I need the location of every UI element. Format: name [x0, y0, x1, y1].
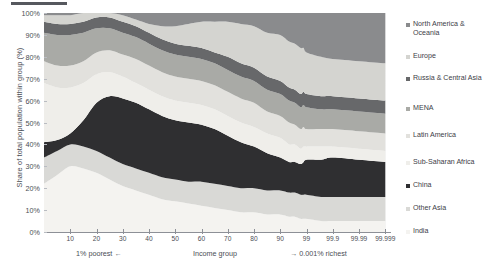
legend-item-label: Sub-Saharan Africa: [413, 158, 491, 167]
x-tick-mark: [97, 229, 98, 234]
x-tick-label: 60: [198, 235, 205, 242]
y-tick-mark: [44, 57, 47, 58]
legend-item-label: Other Asia: [413, 204, 491, 213]
y-tick-label: 50%: [0, 119, 40, 128]
legend-item[interactable]: Europe: [406, 52, 491, 61]
x-tick-mark: [359, 229, 360, 234]
legend-item[interactable]: Other Asia: [406, 204, 491, 213]
legend-item-label: Europe: [413, 52, 491, 61]
legend-swatch-icon: [406, 184, 410, 188]
y-tick-label: 30%: [0, 162, 40, 171]
x-caption-right: → 0.001% richest: [290, 249, 347, 258]
y-tick-label: 60%: [0, 97, 40, 106]
legend-item-label: India: [413, 227, 491, 236]
x-tick-label: 20: [93, 235, 100, 242]
y-tick-label: 0%: [0, 228, 40, 237]
legend-item-label: MENA: [413, 104, 491, 113]
legend-item[interactable]: Sub-Saharan Africa: [406, 158, 491, 167]
legend-item-label: Russia & Central Asia: [413, 74, 491, 83]
x-tick-mark: [70, 229, 71, 234]
x-tick-mark: [228, 229, 229, 234]
x-tick-mark: [280, 229, 281, 234]
y-tick-label: 20%: [0, 184, 40, 193]
x-tick-label: 99.99: [351, 235, 368, 242]
legend-swatch-icon: [406, 207, 410, 211]
y-tick-mark: [44, 232, 47, 233]
legend-item[interactable]: North America & Oceania: [406, 20, 491, 37]
y-tick-mark: [44, 166, 47, 167]
y-tick-mark: [44, 13, 47, 14]
legend-item[interactable]: India: [406, 227, 491, 236]
x-caption-left: 1% poorest ←: [76, 249, 122, 258]
legend-swatch-icon: [406, 134, 410, 138]
x-axis-label: Income group: [193, 249, 237, 258]
y-tick-mark: [44, 210, 47, 211]
y-tick-mark: [44, 35, 47, 36]
y-tick-label: 80%: [0, 53, 40, 62]
chart-figure: Share of total population within group (…: [0, 0, 491, 267]
legend-swatch-icon: [406, 77, 410, 81]
legend-swatch-icon: [406, 161, 410, 165]
x-tick-mark: [175, 229, 176, 234]
legend-item[interactable]: MENA: [406, 104, 491, 113]
legend-swatch-icon: [406, 55, 410, 59]
y-tick-mark: [44, 101, 47, 102]
x-tick-label: 40: [145, 235, 152, 242]
legend-swatch-icon: [406, 107, 410, 111]
x-tick-mark: [307, 229, 308, 234]
y-tick-mark: [44, 188, 47, 189]
x-tick-label: 70: [224, 235, 231, 242]
x-tick-mark: [254, 229, 255, 234]
x-tick-label: 99.999: [375, 235, 395, 242]
x-tick-label: 99.9: [326, 235, 339, 242]
x-tick-label: 10: [67, 235, 74, 242]
x-tick-label: 90: [277, 235, 284, 242]
y-tick-label: 10%: [0, 206, 40, 215]
y-tick-mark: [44, 79, 47, 80]
plot-area: [44, 13, 390, 232]
stacked-area-svg: [44, 13, 390, 232]
y-tick-label: 90%: [0, 31, 40, 40]
x-tick-mark: [385, 229, 386, 234]
legend-item[interactable]: Russia & Central Asia: [406, 74, 491, 83]
x-tick-mark: [202, 229, 203, 234]
x-tick-label: 80: [250, 235, 257, 242]
x-tick-label: 50: [172, 235, 179, 242]
y-tick-mark: [44, 123, 47, 124]
legend-item-label: North America & Oceania: [413, 20, 491, 37]
y-tick-label: 40%: [0, 140, 40, 149]
y-axis-ticks: 100%90%80%70%60%50%40%30%20%10%0%: [0, 0, 40, 267]
y-tick-mark: [44, 144, 47, 145]
legend-item-label: Latin America: [413, 131, 491, 140]
x-tick-label: 30: [119, 235, 126, 242]
x-tick-mark: [123, 229, 124, 234]
x-tick-mark: [333, 229, 334, 234]
y-tick-label: 100%: [0, 9, 40, 18]
legend-swatch-icon: [406, 23, 410, 27]
legend-swatch-icon: [406, 230, 410, 234]
legend-item-label: China: [413, 181, 491, 190]
legend-item[interactable]: China: [406, 181, 491, 190]
legend-item[interactable]: Latin America: [406, 131, 491, 140]
y-tick-label: 70%: [0, 75, 40, 84]
x-tick-mark: [149, 229, 150, 234]
x-tick-label: 99: [303, 235, 310, 242]
